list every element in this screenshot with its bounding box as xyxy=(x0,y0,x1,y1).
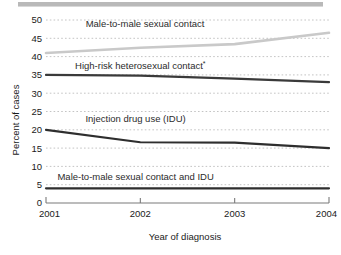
y-tick-labels-group: 05101520253035404550 xyxy=(31,14,42,208)
y-tick-label-40: 40 xyxy=(31,51,42,62)
x-tick-label-2003: 2003 xyxy=(224,208,245,219)
y-tick-label-35: 35 xyxy=(31,69,42,80)
y-tick-label-15: 15 xyxy=(31,143,42,154)
series-line-2 xyxy=(46,130,329,148)
series-inline-labels-group: Male-to-male sexual contactHigh-risk het… xyxy=(57,18,213,182)
x-axis-title: Year of diagnosis xyxy=(149,231,222,242)
series-label-2: Injection drug use (IDU) xyxy=(85,113,185,124)
y-tick-label-0: 0 xyxy=(37,197,42,208)
y-axis-title: Percent of cases xyxy=(10,84,21,155)
figure-container: 05101520253035404550 2001200220032004 Ma… xyxy=(0,0,341,255)
y-tick-label-50: 50 xyxy=(31,14,42,25)
series-line-0 xyxy=(46,33,329,53)
chart-plot-area: 05101520253035404550 2001200220032004 Ma… xyxy=(0,0,341,255)
y-tick-label-5: 5 xyxy=(37,179,42,190)
series-label-1: High-risk heterosexual contact* xyxy=(75,60,206,71)
y-tick-label-30: 30 xyxy=(31,88,42,99)
series-line-1 xyxy=(46,75,329,82)
y-tick-label-45: 45 xyxy=(31,33,42,44)
series-label-0: Male-to-male sexual contact xyxy=(86,18,205,29)
x-tick-label-2004: 2004 xyxy=(316,208,337,219)
x-tick-labels-group: 2001200220032004 xyxy=(39,208,337,219)
series-label-superscript-1: * xyxy=(203,60,206,67)
x-tick-label-2002: 2002 xyxy=(130,208,151,219)
series-label-3: Male-to-male sexual contact and IDU xyxy=(57,171,213,182)
line-chart: 05101520253035404550 2001200220032004 Ma… xyxy=(0,0,341,255)
axis-lines-group xyxy=(46,197,329,203)
y-tick-label-10: 10 xyxy=(31,161,42,172)
y-tick-label-20: 20 xyxy=(31,124,42,135)
y-tick-label-25: 25 xyxy=(31,106,42,117)
x-tick-label-2001: 2001 xyxy=(39,208,60,219)
data-series-group xyxy=(46,33,329,189)
